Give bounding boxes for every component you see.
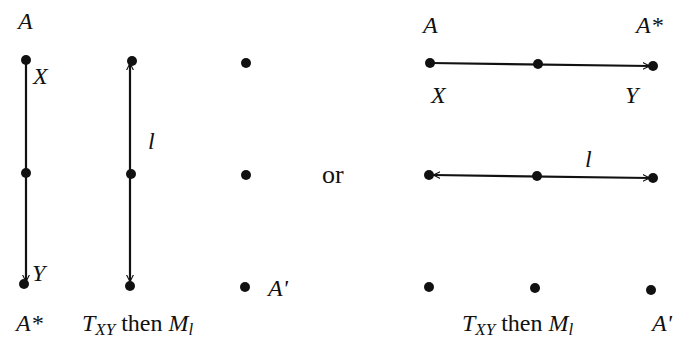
label-line-l: l [148,128,155,154]
label-y: Y [32,260,48,286]
point-line-right [648,173,658,183]
label-a: A [16,8,33,34]
label-x: X [32,63,49,89]
point-a-star-right [648,61,658,71]
right-figure: A A* X Y l A' TXY then Ml [421,12,673,339]
point-a-star [19,279,29,289]
point-a [21,55,31,65]
caption-then: then [115,310,168,336]
label-a-right: A [421,12,438,38]
caption-right: TXY then Ml [462,310,574,339]
caption-m-subscript-right: l [569,320,574,339]
label-x-right: X [430,82,447,108]
point-line-bottom [125,281,135,291]
point-row3-left [424,282,434,292]
label-a-star-text: A* [14,310,43,336]
point-line-mid [126,169,136,179]
caption-left: TXY then Ml [82,310,194,339]
caption-m: M [168,310,191,336]
point-a-prime-right [646,285,656,295]
caption-m-right: M [548,310,571,336]
point-line-left [424,170,434,180]
left-figure: A X l Y A' A* TXY then Ml [14,8,289,339]
label-a-star-right: A* [634,12,663,38]
diagram-canvas: A X l Y A' A* TXY then Ml or A A* X [0,0,678,348]
point-a-right [425,58,435,68]
point-col3-mid [241,170,251,180]
point-line-mid-right [532,171,542,181]
point-mid-col1 [21,168,31,178]
point-a-prime [240,282,250,292]
point-col3-top [241,58,251,68]
caption-m-subscript: l [189,320,194,339]
caption-then-right: then [495,310,548,336]
label-a-prime: A' [266,275,289,301]
separator-or: or [322,160,344,189]
label-a-star: A* [14,310,43,336]
point-row3-mid [530,283,540,293]
caption-t-subscript-right: XY [474,320,496,339]
point-line-top [127,56,137,66]
point-mid-row1 [533,59,543,69]
label-y-right: Y [625,82,641,108]
caption-t-subscript: XY [94,320,116,339]
label-line-l-right: l [585,146,592,172]
label-a-prime-right: A' [650,310,673,336]
